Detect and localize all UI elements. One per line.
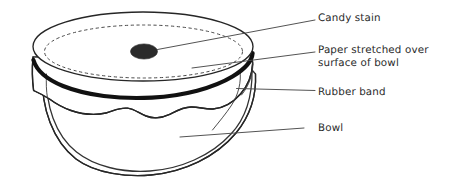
leader-line-rubber-band: [237, 89, 316, 91]
label-paper-stretched-over-surface-of-bowl: Paper stretched over surface of bowl: [318, 44, 429, 69]
label-candy-stain: Candy stain: [318, 12, 381, 25]
candy-stain-blob: [131, 44, 158, 59]
leader-line-bowl: [180, 128, 304, 137]
label-rubber-band: Rubber band: [318, 86, 386, 99]
bowl-paper-diagram-svg: Bowl covered with stretched paper and a …: [0, 0, 461, 181]
candy-stain-group: [131, 44, 158, 59]
diagram-canvas: Bowl covered with stretched paper and a …: [0, 0, 461, 181]
label-bowl: Bowl: [318, 122, 343, 135]
